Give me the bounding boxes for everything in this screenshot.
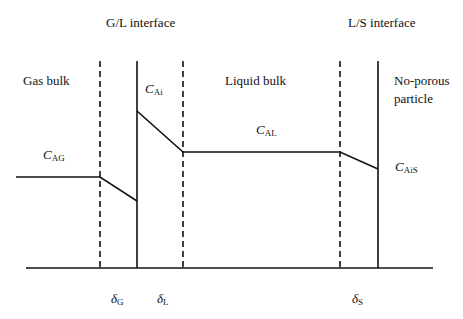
gas-concentration-profile: [16, 177, 137, 201]
gas-bulk-label: Gas bulk: [23, 73, 70, 89]
liquid-bulk-label: Liquid bulk: [225, 73, 286, 89]
c-ai-label: CAi: [145, 81, 163, 97]
ls-interface-label: L/S interface: [348, 15, 416, 31]
liquid-concentration-profile: [137, 111, 378, 169]
particle-label-line1: No-porous: [394, 73, 450, 89]
delta-s-label: δS: [352, 291, 363, 307]
gl-interface-label: G/L interface: [106, 15, 175, 31]
delta-g-label: δG: [111, 291, 124, 307]
delta-l-label: δL: [157, 291, 169, 307]
film-theory-diagram: [0, 0, 463, 319]
c-al-label: CAL: [256, 122, 277, 138]
c-ais-label: CAiS: [395, 159, 418, 175]
particle-label-line2: particle: [394, 91, 433, 107]
c-ag-label: CAG: [43, 147, 65, 163]
